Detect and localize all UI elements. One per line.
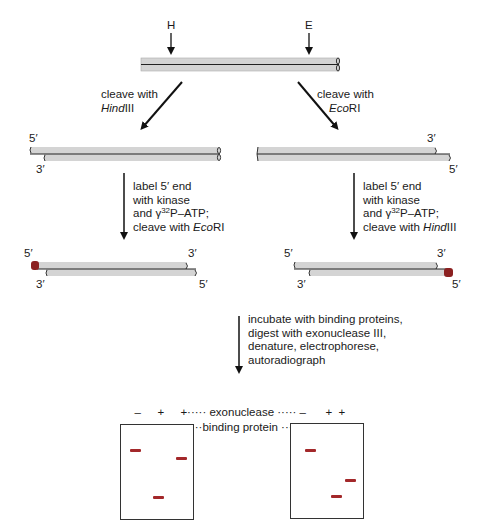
end-label-5prime: 5′ xyxy=(449,163,458,176)
gel-band xyxy=(176,457,187,460)
cleave-ecori-text: cleave with EcoRI xyxy=(317,88,374,115)
label-step-text-left: label 5′ end with kinase and γ32P–ATP; c… xyxy=(133,180,224,234)
right-labeled-fragment xyxy=(294,262,453,277)
end-label-3prime: 3′ xyxy=(188,247,197,260)
ecori-site-label: E xyxy=(305,19,313,32)
autoradiograph-gel-left xyxy=(120,424,194,520)
end-label-5prime: 5′ xyxy=(452,278,461,291)
top-dna-molecule xyxy=(141,58,340,71)
end-label-5prime: 5′ xyxy=(29,132,38,145)
hindiii-site-label: H xyxy=(167,19,175,32)
final-step-text: incubate with binding proteins, digest w… xyxy=(248,313,403,367)
gel-band xyxy=(153,496,164,499)
autoradiograph-gel-right xyxy=(290,423,364,519)
end-label-3prime: 3′ xyxy=(36,278,45,291)
end-label-5prime: 5′ xyxy=(199,278,208,291)
end-label-3prime: 3′ xyxy=(36,163,45,176)
gel-band xyxy=(305,449,316,452)
gel-band xyxy=(331,495,342,498)
radiolabel-cap-right xyxy=(444,268,453,277)
radiolabel-cap-left xyxy=(31,261,39,270)
end-label-5prime: 5′ xyxy=(24,247,33,260)
label-step-text-right: label 5′ end with kinase and γ32P–ATP; c… xyxy=(363,180,456,234)
end-label-3prime: 3′ xyxy=(427,132,436,145)
gel-band xyxy=(130,449,141,452)
end-label-5prime: 5′ xyxy=(284,247,293,260)
gel-band xyxy=(345,479,356,482)
diagram-graphics xyxy=(0,0,477,532)
end-label-3prime: 3′ xyxy=(297,278,306,291)
right-fragment-ecori xyxy=(257,147,451,161)
left-labeled-fragment xyxy=(31,261,197,276)
end-label-3prime: 3′ xyxy=(437,247,446,260)
cleave-hindiii-text: cleave with HindIII xyxy=(101,88,158,115)
left-fragment-hindiii xyxy=(30,147,221,161)
